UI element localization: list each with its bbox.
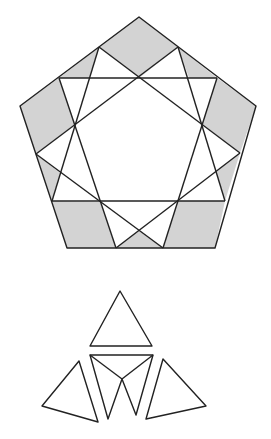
shaded-region <box>52 201 116 248</box>
piece-left-triangle <box>42 361 98 422</box>
shaded-region <box>20 78 75 154</box>
shaded-region <box>163 201 225 248</box>
piece-right-triangle <box>146 359 206 419</box>
shaded-region <box>216 153 240 201</box>
rearranged-pieces <box>42 291 206 422</box>
pentagon-dissection-diagram <box>0 0 271 439</box>
shaded-region <box>202 78 256 153</box>
shaded-region <box>99 17 178 78</box>
shaded-region <box>116 230 163 248</box>
piece-inner-line <box>90 355 122 379</box>
shaded-region <box>36 154 60 201</box>
piece-top-triangle <box>90 291 152 346</box>
piece-middle-w <box>90 355 153 419</box>
piece-middle-w-inner-lines <box>90 355 153 379</box>
piece-inner-line <box>122 355 153 379</box>
